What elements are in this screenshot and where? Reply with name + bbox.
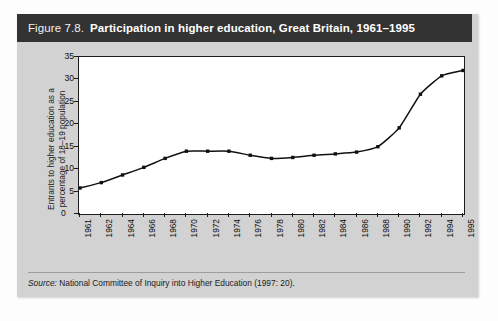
x-axis-tick-labels: 1961196219641966196819701972197419761978… <box>78 213 463 269</box>
x-tick-label-1964: 1964 <box>126 219 136 237</box>
y-tick-mark <box>74 123 78 124</box>
data-point-1961 <box>79 186 82 189</box>
x-tick-label-1992: 1992 <box>423 219 433 237</box>
x-tick-label-1976: 1976 <box>253 219 263 237</box>
chart-region: Entrants to higher education as a percen… <box>17 42 478 270</box>
x-tick-label-1994: 1994 <box>445 219 455 237</box>
y-tick-mark <box>74 191 78 192</box>
figure-number: Figure 7.8. <box>28 22 84 34</box>
data-point-1974 <box>227 150 230 153</box>
x-tick-mark <box>122 213 123 217</box>
data-point-1988 <box>376 145 379 148</box>
x-tick-label-1978: 1978 <box>275 219 285 237</box>
x-tick-label-1980: 1980 <box>296 219 306 237</box>
series-line-path <box>80 70 463 188</box>
x-tick-mark <box>356 213 357 217</box>
x-tick-label-1995: 1995 <box>466 219 476 237</box>
y-tick-mark <box>74 213 78 214</box>
x-tick-label-1970: 1970 <box>189 219 199 237</box>
y-tick-mark <box>74 146 78 147</box>
data-point-1968 <box>163 157 166 160</box>
data-point-1992 <box>419 93 422 96</box>
data-point-1970 <box>185 150 188 153</box>
data-point-1986 <box>355 150 358 153</box>
data-point-1962 <box>100 181 103 184</box>
y-tick-label-15: 15 <box>64 141 74 151</box>
y-tick-mark <box>74 78 78 79</box>
x-tick-mark <box>441 213 442 217</box>
x-tick-mark <box>185 213 186 217</box>
x-tick-label-1988: 1988 <box>381 219 391 237</box>
y-tick-label-10: 10 <box>64 163 74 173</box>
x-tick-label-1972: 1972 <box>211 219 221 237</box>
y-axis-tick-labels: 5101520253035 <box>55 56 74 213</box>
x-tick-mark <box>228 213 229 217</box>
data-point-1995 <box>461 69 464 72</box>
figure-caption: Participation in higher education, Great… <box>90 22 415 34</box>
x-tick-label-1982: 1982 <box>317 219 327 237</box>
figure-panel: Figure 7.8. Participation in higher educ… <box>17 14 478 297</box>
data-point-1972 <box>206 150 209 153</box>
x-tick-mark <box>79 213 80 217</box>
x-tick-label-1984: 1984 <box>338 219 348 237</box>
x-tick-label-1990: 1990 <box>402 219 412 237</box>
x-tick-mark <box>249 213 250 217</box>
data-point-1976 <box>249 154 252 157</box>
x-tick-mark <box>207 213 208 217</box>
x-tick-mark <box>100 213 101 217</box>
data-point-1982 <box>312 154 315 157</box>
y-axis-zero-label: 0 <box>61 208 66 218</box>
y-tick-mark <box>74 56 78 57</box>
x-tick-label-1961: 1961 <box>83 219 93 237</box>
data-point-1966 <box>142 166 145 169</box>
figure-title-bar: Figure 7.8. Participation in higher educ… <box>17 14 472 42</box>
data-point-1980 <box>291 156 294 159</box>
x-tick-mark <box>143 213 144 217</box>
x-tick-label-1974: 1974 <box>232 219 242 237</box>
data-point-1990 <box>397 126 400 129</box>
plot-area <box>78 56 465 215</box>
y-tick-label-35: 35 <box>64 51 74 61</box>
x-tick-mark <box>292 213 293 217</box>
x-tick-mark <box>377 213 378 217</box>
x-tick-mark <box>398 213 399 217</box>
y-tick-label-20: 20 <box>64 118 74 128</box>
x-tick-label-1962: 1962 <box>104 219 114 237</box>
series-markers <box>79 69 464 190</box>
source-note: Source: National Committee of Inquiry in… <box>28 278 468 288</box>
source-label: Source: <box>28 278 57 288</box>
x-tick-label-1986: 1986 <box>360 219 370 237</box>
x-tick-label-1966: 1966 <box>147 219 157 237</box>
y-tick-label-30: 30 <box>64 73 74 83</box>
data-point-1964 <box>121 173 124 176</box>
data-point-1984 <box>334 152 337 155</box>
x-tick-mark <box>271 213 272 217</box>
x-tick-mark <box>419 213 420 217</box>
x-tick-mark <box>313 213 314 217</box>
data-point-1994 <box>440 74 443 77</box>
y-tick-mark <box>74 101 78 102</box>
x-tick-mark <box>164 213 165 217</box>
y-tick-mark <box>74 168 78 169</box>
x-tick-mark <box>462 213 463 217</box>
x-tick-label-1968: 1968 <box>168 219 178 237</box>
source-divider <box>28 272 465 273</box>
line-chart-svg <box>79 57 464 214</box>
x-tick-mark <box>334 213 335 217</box>
y-tick-label-25: 25 <box>64 96 74 106</box>
data-point-1978 <box>270 157 273 160</box>
source-text: National Committee of Inquiry into Highe… <box>59 278 295 288</box>
